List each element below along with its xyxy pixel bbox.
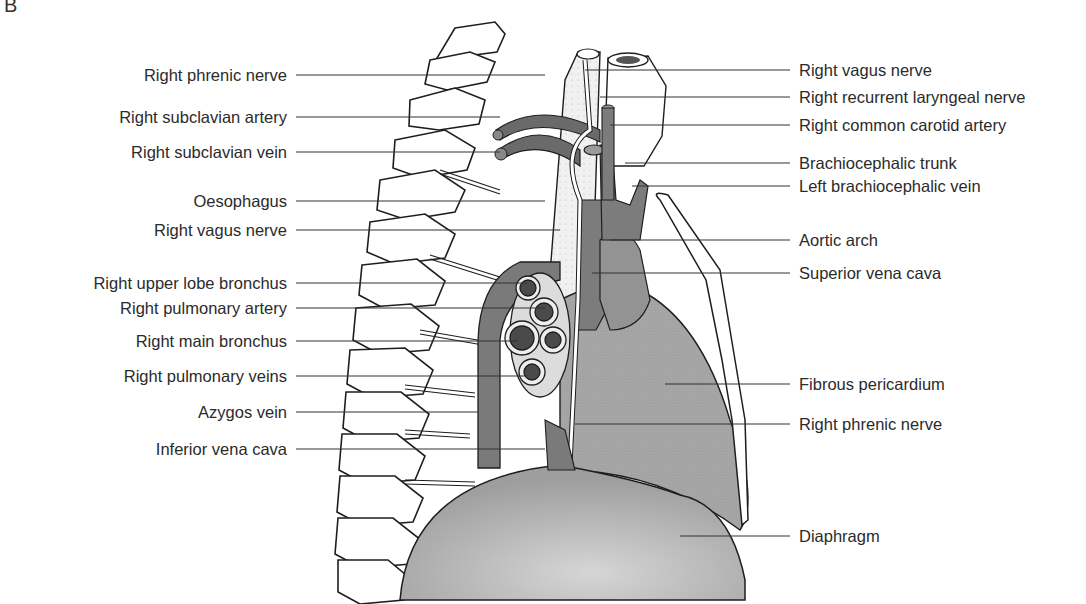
label-left-7: Right main bronchus [136,332,287,350]
label-left-1: Right subclavian artery [119,108,287,126]
label-right-2: Right common carotid artery [799,116,1006,134]
anatomy-figure: B [0,0,1086,604]
label-left-0: Right phrenic nerve [144,66,287,84]
label-left-2: Right subclavian vein [131,143,287,161]
label-right-6: Superior vena cava [799,264,941,282]
right-common-carotid [602,108,614,200]
label-left-9: Azygos vein [198,403,287,421]
label-left-4: Right vagus nerve [154,221,287,239]
label-right-8: Right phrenic nerve [799,415,942,433]
label-left-5: Right upper lobe bronchus [93,274,287,292]
label-right-1: Right recurrent laryngeal nerve [799,88,1026,106]
label-right-5: Aortic arch [799,231,878,249]
label-right-0: Right vagus nerve [799,61,932,79]
label-right-3: Brachiocephalic trunk [799,154,957,172]
aortic-arch [600,232,650,330]
label-left-6: Right pulmonary artery [120,299,287,317]
label-left-10: Inferior vena cava [156,440,287,458]
label-right-9: Diaphragm [799,527,880,545]
label-left-3: Oesophagus [193,192,287,210]
label-left-8: Right pulmonary veins [124,367,287,385]
label-right-4: Left brachiocephalic vein [799,177,981,195]
label-right-7: Fibrous pericardium [799,375,945,393]
